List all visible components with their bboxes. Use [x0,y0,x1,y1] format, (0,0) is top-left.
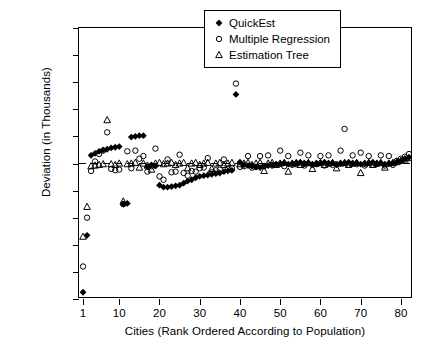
x-tick-label: 20 [139,308,179,320]
x-tick-mark [280,299,281,305]
y-tick-mark [73,28,79,29]
series-quickest [80,91,411,296]
x-tick-mark [401,299,402,305]
legend-item-label: Multiple Regression [227,33,330,45]
x-tick-mark [200,299,201,305]
legend-item-0: QuickEst [211,15,330,31]
x-axis-title: Cities (Rank Ordered According to Popula… [78,325,412,337]
x-tick-mark [159,299,160,305]
x-tick-label: 30 [180,308,220,320]
legend-item-2: Estimation Tree [211,47,330,63]
open-triangle-icon [211,49,227,61]
x-tick-label: 10 [99,308,139,320]
y-tick-mark [73,136,79,137]
filled-diamond-icon [211,17,227,29]
y-tick-mark [73,82,79,83]
x-tick-label: 1 [63,308,103,320]
x-tick-label: 50 [260,308,300,320]
x-tick-mark [361,299,362,305]
plot-canvas [79,28,411,297]
y-tick-mark [73,272,79,273]
legend: QuickEstMultiple RegressionEstimation Tr… [204,10,341,68]
open-circle-icon [211,33,227,45]
legend-item-label: Estimation Tree [227,49,309,61]
y-axis-title: Deviation (in Thousands) [40,22,52,242]
x-tick-label: 70 [341,308,381,320]
x-tick-label: 60 [300,308,340,320]
legend-item-1: Multiple Regression [211,31,330,47]
series-multiple-regression [80,81,411,269]
y-tick-mark [73,299,79,300]
x-tick-label: 40 [220,308,260,320]
data-points-layer [79,28,411,297]
x-tick-mark [119,299,120,305]
y-tick-mark [73,109,79,110]
x-tick-mark [240,299,241,305]
y-tick-mark [73,218,79,219]
y-tick-mark [73,191,79,192]
scatter-plot-figure: Deviation (in Thousands) Cities (Rank Or… [0,0,432,350]
y-tick-mark [73,55,79,56]
legend-item-label: QuickEst [227,17,275,29]
x-tick-mark [320,299,321,305]
x-tick-mark [83,299,84,305]
x-tick-label: 80 [381,308,421,320]
y-tick-mark [73,164,79,165]
y-tick-mark [73,245,79,246]
